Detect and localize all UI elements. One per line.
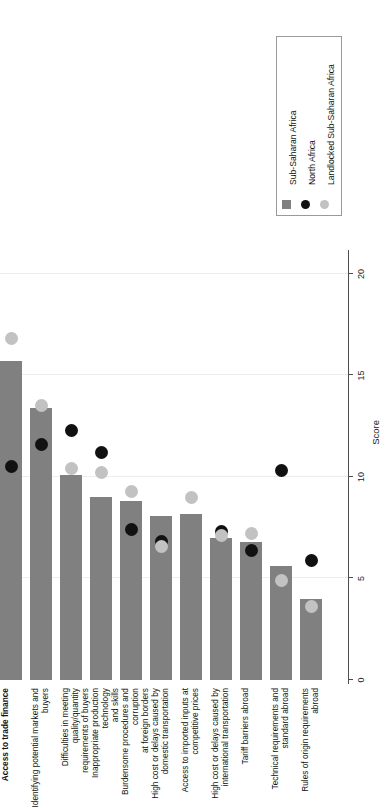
axis-tick (348, 578, 353, 579)
axis-tick-label: 20 (356, 262, 366, 286)
north-africa-dot (245, 544, 258, 557)
axis-tick-label: 0 (356, 668, 366, 692)
landlocked-sub-saharan-africa-dot (125, 485, 138, 498)
axis-tick (348, 679, 353, 680)
gridline (0, 375, 348, 376)
north-africa-dot (125, 523, 138, 536)
axis-title: Score (370, 402, 381, 462)
category-label: Tariff barriers abroad (240, 688, 250, 808)
score-axis-line (348, 250, 349, 684)
bar (0, 361, 22, 680)
north-africa-dot (305, 554, 318, 567)
north-africa-dot (65, 424, 78, 437)
gridline (0, 273, 348, 274)
category-label: Identifying potential markets and buyers (30, 688, 50, 808)
gridline (0, 476, 348, 477)
bar (60, 475, 82, 680)
category-label: Technical requirements and standard abro… (270, 688, 290, 808)
category-label: High cost or delays caused by internatio… (210, 688, 230, 808)
landlocked-sub-saharan-africa-dot (35, 399, 48, 412)
category-label: Access to imported inputs at competitive… (180, 688, 200, 808)
landlocked-sub-saharan-africa-dot (185, 491, 198, 504)
axis-tick (348, 375, 353, 376)
north-africa-dot (95, 446, 108, 459)
category-label: High cost or delays caused by domestic t… (150, 688, 170, 808)
landlocked-sub-saharan-africa-dot (5, 332, 18, 345)
bar (90, 497, 112, 680)
bar (180, 514, 202, 680)
axis-tick-label: 5 (356, 567, 366, 591)
category-label: Access to trade finance (0, 688, 10, 808)
landlocked-sub-saharan-africa-dot (65, 462, 78, 475)
axis-tick-label: 15 (356, 364, 366, 388)
landlocked-sub-saharan-africa-dot (305, 600, 318, 613)
landlocked-sub-saharan-africa-dot (245, 527, 258, 540)
axis-tick-label: 10 (356, 465, 366, 489)
landlocked-sub-saharan-africa-dot (215, 529, 228, 542)
north-africa-dot (35, 438, 48, 451)
category-label: Difficulties in meeting quality/quantity… (60, 688, 90, 808)
bar (240, 542, 262, 680)
axis-tick (348, 476, 353, 477)
landlocked-sub-saharan-africa-dot (155, 540, 168, 553)
bar (210, 538, 232, 680)
axis-tick (348, 273, 353, 274)
landlocked-sub-saharan-africa-dot (95, 466, 108, 479)
north-africa-dot (5, 460, 18, 473)
north-africa-dot (275, 464, 288, 477)
category-label: Rules of origin requirements abroad (300, 688, 320, 808)
category-label: Inappropriate production technology and … (90, 688, 120, 808)
gridline (0, 578, 348, 579)
landlocked-sub-saharan-africa-dot (275, 574, 288, 587)
category-label: Burdensome procedures and corruption at … (120, 688, 150, 808)
